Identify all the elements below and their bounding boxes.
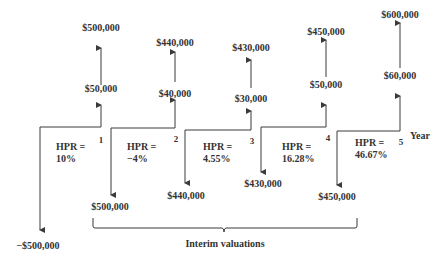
income-2: $40,000 bbox=[159, 88, 192, 99]
year-tick-5: 5 bbox=[399, 137, 404, 147]
interim-valuations-label: Interim valuations bbox=[185, 238, 264, 249]
income-1: $50,000 bbox=[85, 83, 118, 94]
year-tick-1: 1 bbox=[99, 135, 104, 145]
income-3: $30,000 bbox=[235, 93, 268, 104]
cash-flow-diagram: $500,000 $50,000 −$500,000 HPR = 10% 1 $… bbox=[0, 0, 441, 257]
hpr-value-2: −4% bbox=[127, 153, 148, 164]
outflow-5: $450,000 bbox=[318, 191, 356, 202]
year-tick-3: 3 bbox=[250, 136, 255, 146]
hpr-label-3: HPR = bbox=[203, 141, 233, 152]
income-4: $50,000 bbox=[310, 79, 343, 90]
hpr-value-5: 46.67% bbox=[355, 149, 388, 160]
end-value-4: $450,000 bbox=[307, 26, 345, 37]
hpr-value-4: 16.28% bbox=[282, 153, 315, 164]
year-axis-label: Year bbox=[410, 130, 431, 141]
period-1: $500,000 $50,000 −$500,000 HPR = 10% 1 bbox=[16, 22, 119, 251]
year-tick-4: 4 bbox=[326, 133, 331, 143]
end-value-5: $600,000 bbox=[381, 9, 419, 20]
outflow-3: $440,000 bbox=[167, 190, 205, 201]
end-value-3: $430,000 bbox=[232, 42, 270, 53]
end-value-2: $440,000 bbox=[156, 37, 194, 48]
hpr-label-5: HPR = bbox=[355, 137, 385, 148]
hpr-label-1: HPR = bbox=[56, 141, 86, 152]
income-5: $60,000 bbox=[384, 70, 417, 81]
period-5: $600,000 $60,000 $450,000 HPR = 46.67% 5 bbox=[318, 9, 419, 202]
outflow-4: $430,000 bbox=[244, 178, 282, 189]
outflow-1: −$500,000 bbox=[16, 240, 59, 251]
year-tick-2: 2 bbox=[174, 134, 179, 144]
hpr-value-1: 10% bbox=[56, 153, 76, 164]
hpr-label-4: HPR = bbox=[282, 141, 312, 152]
hpr-label-2: HPR = bbox=[127, 141, 157, 152]
hpr-value-3: 4.55% bbox=[203, 153, 231, 164]
interim-valuations-brace bbox=[93, 218, 357, 232]
period-2: $440,000 $40,000 $500,000 HPR = −4% 2 bbox=[91, 37, 194, 212]
end-value-1: $500,000 bbox=[82, 22, 120, 33]
outflow-2: $500,000 bbox=[91, 201, 129, 212]
